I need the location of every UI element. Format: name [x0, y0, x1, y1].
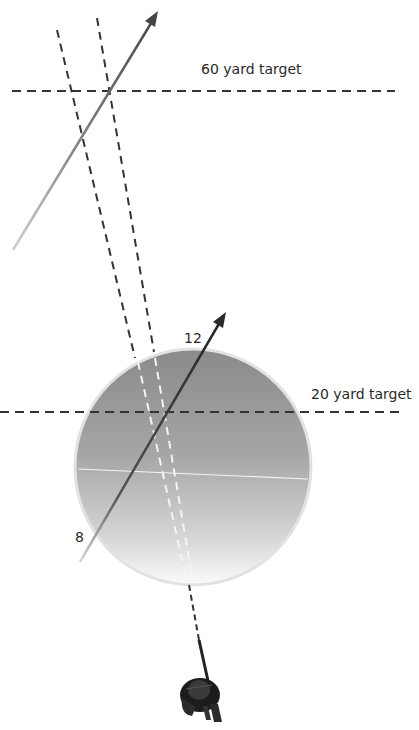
archer-figure: [180, 678, 222, 722]
near-target-label: 20 yard target: [311, 386, 412, 402]
sight-line-right: [97, 18, 154, 352]
arrow-path-far: [13, 20, 153, 250]
marker-eight: 8: [75, 529, 84, 545]
clock-face-circle: [75, 349, 311, 585]
arrow-head-far: [145, 11, 158, 27]
marker-twelve: 12: [184, 330, 202, 346]
aiming-diagram: [0, 0, 419, 730]
arrow-head-near: [213, 312, 226, 328]
sight-line-left: [57, 30, 135, 358]
far-target-label: 60 yard target: [201, 61, 302, 77]
bow-line-dashed: [189, 585, 199, 640]
